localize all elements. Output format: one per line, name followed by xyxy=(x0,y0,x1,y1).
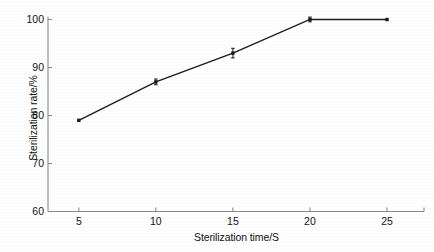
axes xyxy=(48,17,424,212)
data-point-marker xyxy=(308,18,311,21)
data-point-marker xyxy=(385,18,388,21)
data-point-marker xyxy=(77,119,80,122)
axis-ticks xyxy=(48,20,424,212)
data-point-marker xyxy=(231,51,234,54)
plot-area xyxy=(0,0,434,252)
series-line xyxy=(79,20,387,121)
data-point-marker xyxy=(154,80,157,83)
data-series xyxy=(77,17,389,122)
chart-figure: Sterilization rate/% Sterilization time/… xyxy=(0,0,434,252)
